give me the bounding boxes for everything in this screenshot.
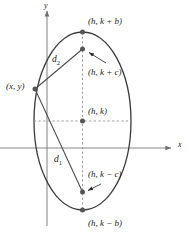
point-on-curve [33, 87, 38, 92]
point-focus-upper [80, 47, 85, 52]
figure-canvas [0, 0, 188, 235]
label-focal-radius-d2: d2 [52, 55, 60, 66]
label-focal-radius-d1: d1 [54, 155, 62, 166]
ellipse-figure: y x (h, k + b) (h, k + c) (x, y) (h, k) … [0, 0, 188, 235]
leader-arrow-focus-upper [89, 53, 106, 64]
y-axis-label: y [44, 2, 48, 10]
point-vertex-bottom [80, 208, 85, 213]
focal-radius-d1-line [35, 89, 83, 192]
leader-arrow-focus-lower [88, 184, 101, 191]
x-axis-label: x [178, 141, 182, 149]
label-d2-subscript: 2 [57, 59, 60, 66]
label-point-on-curve: (x, y) [6, 82, 24, 91]
label-vertex-top: (h, k + b) [88, 17, 122, 26]
label-vertex-bottom: (h, k − b) [88, 219, 122, 228]
label-focus-lower: (h, k − c) [88, 170, 122, 179]
label-focus-upper: (h, k + c) [88, 68, 122, 77]
label-d1-subscript: 1 [59, 159, 62, 166]
point-focus-lower [80, 190, 85, 195]
point-center [80, 119, 85, 124]
point-vertex-top [80, 30, 85, 35]
label-center: (h, k) [88, 107, 107, 116]
